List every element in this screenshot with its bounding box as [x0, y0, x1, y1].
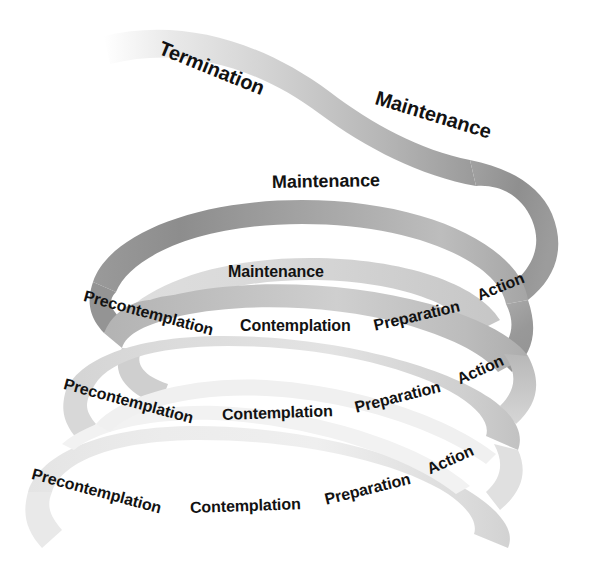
spiral-diagram-canvas: Termination Maintenance Maintenance Main… [0, 0, 599, 562]
label-maintenance-second: Maintenance [272, 171, 380, 191]
ribbon-segment-bottom-left [25, 492, 62, 548]
label-maintenance-third: Maintenance [228, 264, 324, 280]
label-contemplation-third: Contemplation [240, 318, 351, 334]
